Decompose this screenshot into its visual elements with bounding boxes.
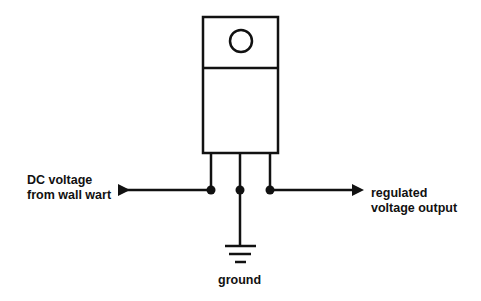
junction-dot-icon [236, 186, 245, 195]
diagram-canvas: DC voltage from wall wart regulated volt… [0, 0, 481, 301]
ground-label: ground [218, 273, 261, 288]
output-label-line2: voltage output [371, 201, 457, 216]
regulator-package [203, 17, 278, 153]
junction-dot-icon [207, 186, 216, 195]
junction-dots [207, 186, 275, 195]
junction-dot-icon [266, 186, 275, 195]
input-wire [118, 184, 211, 196]
output-label-line1: regulated [371, 186, 457, 201]
input-label: DC voltage from wall wart [27, 173, 111, 203]
regulator-pins [211, 153, 270, 245]
input-label-line1: DC voltage [27, 173, 111, 188]
output-wire [270, 184, 364, 196]
input-arrow-icon [118, 184, 130, 196]
ground-symbol-icon [225, 246, 256, 262]
input-label-line2: from wall wart [27, 188, 111, 203]
regulator-body [203, 17, 278, 153]
output-label: regulated voltage output [371, 186, 457, 216]
output-arrow-icon [352, 184, 364, 196]
circuit-diagram [0, 0, 481, 301]
mounting-hole-icon [230, 30, 252, 52]
